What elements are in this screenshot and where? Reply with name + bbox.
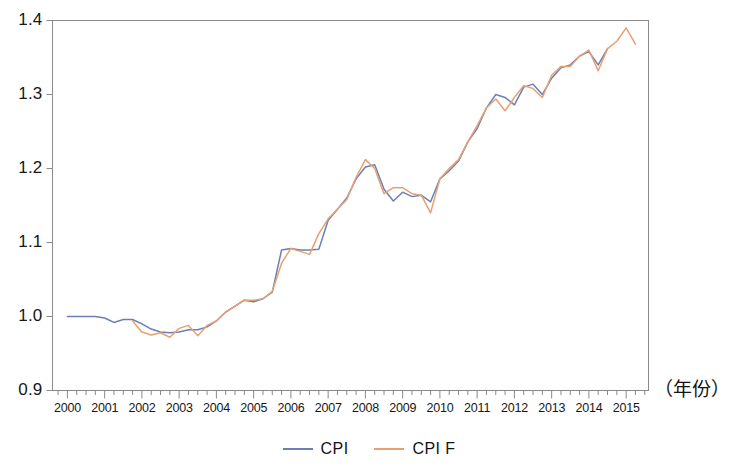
y-tick-label: 1.3 <box>1 84 43 104</box>
y-axis-ticks <box>47 21 53 391</box>
legend-item-cpi-f: CPI F <box>374 440 455 458</box>
chart-legend: CPI CPI F <box>0 440 738 458</box>
legend-item-cpi: CPI <box>283 440 349 458</box>
data-series-group <box>67 28 635 337</box>
y-tick-label: 1.1 <box>1 232 43 252</box>
chart-figure: 0.91.01.11.21.31.4 200020012002200320042… <box>0 0 738 468</box>
line-chart-canvas <box>0 0 738 468</box>
x-axis-title: （年份） <box>654 374 730 401</box>
legend-swatch-cpi-f <box>374 448 404 450</box>
y-tick-label: 1.0 <box>1 306 43 326</box>
x-axis-ticks <box>58 391 645 399</box>
y-tick-label: 1.2 <box>1 158 43 178</box>
x-tick-label: 2015 <box>603 401 649 415</box>
legend-label-cpi-f: CPI F <box>412 440 455 458</box>
y-tick-label: 1.4 <box>1 10 43 30</box>
plot-frame <box>53 21 649 391</box>
legend-label-cpi: CPI <box>321 440 349 458</box>
y-tick-label: 0.9 <box>1 380 43 400</box>
legend-swatch-cpi <box>283 448 313 450</box>
